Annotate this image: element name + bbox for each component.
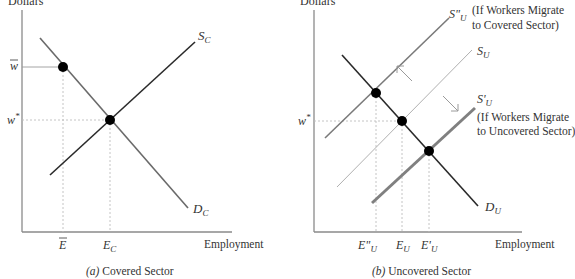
e-c-tick-label: EC — [102, 238, 117, 254]
note-uncovered-line1: (If Workers Migrate — [477, 111, 569, 124]
e-bar-tick-label: E — [58, 238, 67, 252]
supply-label-covered: SC — [198, 28, 212, 45]
x-axis-label: Employment — [495, 238, 555, 251]
supply-prime-label: S'U — [477, 92, 493, 108]
w-bar-label: w — [10, 59, 18, 73]
x-axis-label: Employment — [204, 238, 264, 251]
labor-market-diagram: Dollars SC DC w w* E EC Employment (a) C… — [0, 0, 575, 279]
caption-uncovered: (b) Uncovered Sector — [372, 265, 471, 278]
e-prime-tick-label: E'U — [420, 238, 438, 254]
equilibrium-point-double-prime — [371, 88, 381, 98]
note-covered-line2: to Covered Sector) — [472, 19, 559, 32]
note-uncovered-line2: to Uncovered Sector) — [477, 125, 575, 138]
demand-label-covered: DC — [192, 201, 209, 218]
minimum-wage-point — [58, 62, 68, 72]
shift-down-arrow-icon — [443, 96, 458, 111]
e-u-tick-label: EU — [395, 238, 410, 254]
panel-uncovered-sector: Dollars S"U (If Workers Migrate to Cov — [298, 0, 575, 278]
equilibrium-point-uncovered — [397, 116, 407, 126]
supply-curve-covered — [50, 42, 195, 175]
supply-curve-double-prime — [325, 18, 449, 138]
demand-label-uncovered: DU — [484, 199, 501, 216]
supply-uncovered-label: SU — [477, 44, 490, 60]
panel-covered-sector: Dollars SC DC w w* E EC Employment (a) C… — [7, 0, 264, 278]
note-covered-line1: (If Workers Migrate — [472, 4, 564, 17]
supply-curve-prime — [372, 108, 475, 203]
shift-up-arrow-icon — [397, 66, 412, 81]
caption-covered: (a) Covered Sector — [86, 265, 174, 278]
supply-double-prime-label: S"U — [449, 7, 467, 23]
equilibrium-point-covered — [105, 115, 115, 125]
e-double-prime-tick-label: E"U — [357, 238, 377, 254]
equilibrium-point-prime — [424, 146, 434, 156]
y-axis-label: Dollars — [300, 0, 336, 8]
y-axis-label: Dollars — [8, 0, 44, 8]
w-star-label: w* — [298, 112, 311, 128]
demand-curve-uncovered — [342, 55, 478, 206]
w-star-label: w* — [7, 111, 20, 127]
